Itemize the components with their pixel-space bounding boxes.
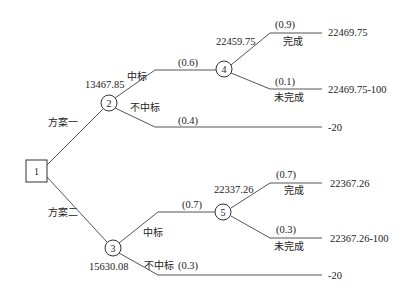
edge-3-to-5 (119, 212, 215, 243)
outcome-label-5-incomplete: 未完成 (274, 240, 304, 252)
probability-4-complete: (0.9) (275, 19, 296, 31)
branch-label-plan-1: 方案一 (48, 116, 78, 128)
payoff-5-complete: 22367.26 (330, 178, 369, 189)
decision-tree-diagram: 1 2 4 3 5 方案一 方案二 13467.85 22459.75 1563… (0, 0, 408, 296)
payoff-3-lose: -20 (328, 270, 342, 281)
expected-value-node-4: 22459.75 (216, 36, 255, 47)
probability-5-incomplete: (0.3) (276, 224, 297, 236)
outcome-label-4-complete: 完成 (283, 35, 303, 47)
probability-3-win: (0.7) (182, 199, 203, 211)
probability-2-win: (0.6) (178, 57, 199, 69)
expected-value-node-2: 13467.85 (85, 79, 124, 90)
payoff-4-incomplete: 22469.75-100 (328, 84, 387, 95)
decision-node-1-label: 1 (34, 166, 39, 177)
probability-3-lose: (0.3) (178, 260, 199, 272)
payoff-2-lose: -20 (328, 122, 342, 133)
probability-2-lose: (0.4) (178, 115, 199, 127)
outcome-label-2-lose: 不中标 (130, 101, 160, 113)
outcome-label-3-win: 中标 (143, 226, 163, 238)
expected-value-node-5: 22337.26 (214, 184, 253, 195)
chance-node-3-label: 3 (111, 243, 116, 254)
outcome-label-3-lose: 不中标 (144, 259, 174, 271)
expected-value-node-3: 15630.08 (89, 261, 128, 272)
outcome-label-5-complete: 完成 (284, 184, 304, 196)
decision-tree-svg: 1 2 4 3 5 方案一 方案二 13467.85 22459.75 1563… (0, 0, 408, 296)
chance-node-4-label: 4 (222, 64, 227, 75)
outcome-label-2-win: 中标 (127, 70, 147, 82)
branch-label-plan-2: 方案二 (48, 206, 78, 218)
probability-4-incomplete: (0.1) (275, 76, 296, 88)
payoff-4-complete: 22469.75 (328, 27, 367, 38)
chance-node-2-label: 2 (107, 98, 112, 109)
probability-5-complete: (0.7) (276, 169, 297, 181)
payoff-5-incomplete: 22367.26-100 (330, 233, 389, 244)
outcome-label-4-incomplete: 未完成 (274, 91, 304, 103)
chance-node-5-label: 5 (221, 207, 226, 218)
